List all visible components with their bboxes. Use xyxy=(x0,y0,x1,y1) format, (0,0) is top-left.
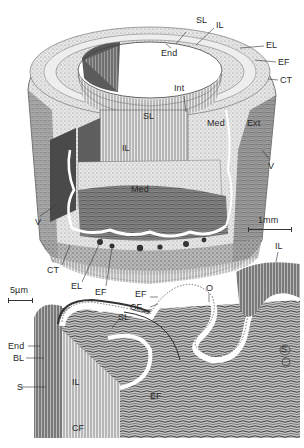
label-s-left: S xyxy=(17,383,23,392)
label-intima: Int xyxy=(174,84,184,93)
label-il-top: IL xyxy=(216,21,224,30)
label-sl-top: SL xyxy=(196,16,207,25)
label-ef-lower-mid: EF xyxy=(150,392,162,401)
label-il-lower: IL xyxy=(72,378,80,387)
label-v-left: V xyxy=(35,218,41,227)
scale-bar-1mm: 1mm xyxy=(248,224,294,238)
label-ef-lower-top: EF xyxy=(135,290,147,299)
label-v-right: V xyxy=(268,162,274,171)
label-cf-lower-top: CF xyxy=(130,303,142,312)
label-media-top: Med xyxy=(207,119,225,128)
label-ef-bottom: EF xyxy=(95,288,107,297)
scale-label-5um: 5µm xyxy=(10,286,28,295)
label-s-right: S xyxy=(281,345,287,354)
label-externa: Ext xyxy=(247,119,260,128)
upper-artery-drawing xyxy=(28,27,276,284)
label-il-cut: IL xyxy=(122,144,130,153)
label-media-cut: Med xyxy=(131,185,149,194)
label-el-bottom: EL xyxy=(71,282,82,291)
label-cf-lower-bottom: CF xyxy=(72,424,84,433)
label-ct-top: CT xyxy=(280,76,292,85)
label-o: O xyxy=(206,284,213,293)
label-el-top: EL xyxy=(266,41,277,50)
label-sl-mid: SL xyxy=(143,112,154,121)
label-il-right: IL xyxy=(275,242,283,251)
label-sl-lower: SL xyxy=(118,313,129,322)
label-ct-bottom: CT xyxy=(47,266,59,275)
label-bl: BL xyxy=(13,354,24,363)
scale-label-1mm: 1mm xyxy=(258,216,278,225)
label-ef-top: EF xyxy=(278,58,290,67)
scale-bar-5um: 5µm xyxy=(8,290,36,304)
label-endothelium: End xyxy=(161,49,177,58)
label-end-lower: End xyxy=(8,342,24,351)
